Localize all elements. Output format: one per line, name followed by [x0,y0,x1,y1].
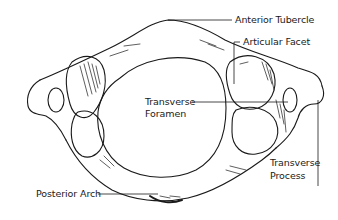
label-transverse-process-line1: Transverse [270,157,320,168]
right-transverse-foramen [283,88,297,112]
label-posterior-arch: Posterior Arch [36,188,101,199]
atlas-vertebra-diagram: Anterior Tubercle Articular Facet Transv… [0,0,338,220]
label-transverse-process-line2: Process [270,170,305,181]
label-articular-facet: Articular Facet [243,36,310,47]
left-transverse-foramen [48,88,64,112]
label-transverse-foramen-line2: Foramen [145,108,186,119]
label-anterior-tubercle: Anterior Tubercle [235,14,314,25]
anterior-arch-outline [40,20,322,86]
leader-articular-facet [234,42,240,84]
right-articular-facet [226,56,275,109]
label-transverse-foramen-line1: Transverse [145,96,195,107]
